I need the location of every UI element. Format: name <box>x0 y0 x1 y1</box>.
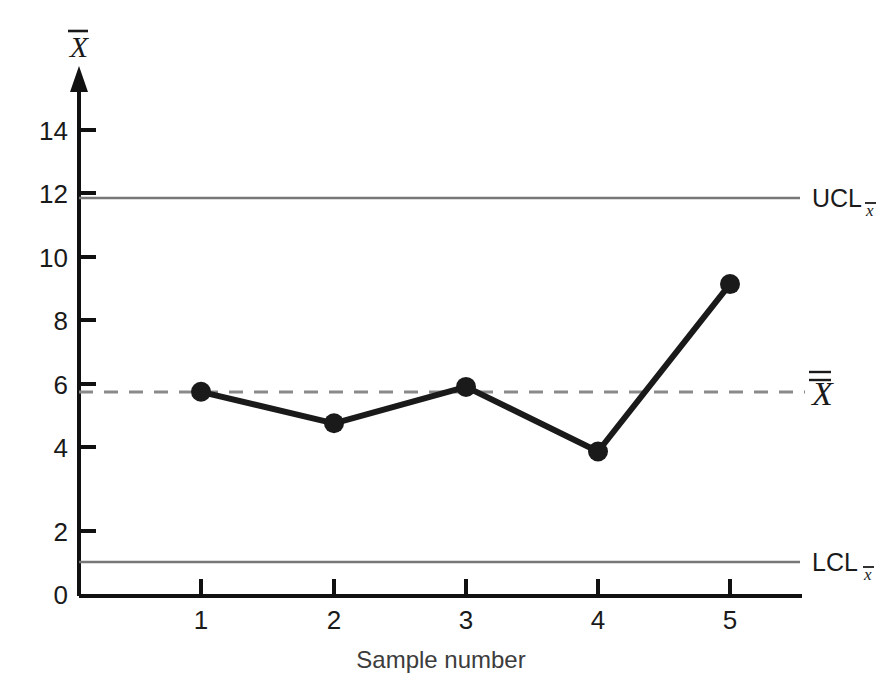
chart-canvas: 14 12 10 8 6 4 2 0 X 1 <box>0 0 889 692</box>
data-point-1 <box>191 382 211 402</box>
data-point-5 <box>720 274 740 294</box>
x-tick-label-4: 4 <box>591 605 605 635</box>
data-point-2 <box>324 413 344 433</box>
y-tick-label-0: 0 <box>54 580 68 610</box>
y-axis-title-text: X <box>69 30 90 63</box>
control-chart-figure: 14 12 10 8 6 4 2 0 X 1 <box>0 0 889 692</box>
chart-background <box>0 0 889 692</box>
data-point-4 <box>588 442 608 462</box>
x-tick-label-5: 5 <box>723 605 737 635</box>
x-tick-label-1: 1 <box>194 605 208 635</box>
y-tick-label-2: 2 <box>54 517 68 547</box>
y-tick-label-10: 10 <box>39 243 68 273</box>
y-axis-title: X <box>68 30 90 63</box>
y-tick-label-4: 4 <box>54 433 68 463</box>
x-axis-title: Sample number <box>356 646 525 673</box>
lcl-label: LCL <box>812 548 858 576</box>
y-tick-label-14: 14 <box>39 116 68 146</box>
y-tick-label-6: 6 <box>54 370 68 400</box>
ucl-label: UCL <box>812 184 862 212</box>
y-tick-label-12: 12 <box>39 179 68 209</box>
x-tick-label-3: 3 <box>459 605 473 635</box>
x-tick-label-2: 2 <box>327 605 341 635</box>
center-label-group: X <box>809 372 834 412</box>
y-tick-label-8: 8 <box>54 306 68 336</box>
data-point-3 <box>456 377 476 397</box>
